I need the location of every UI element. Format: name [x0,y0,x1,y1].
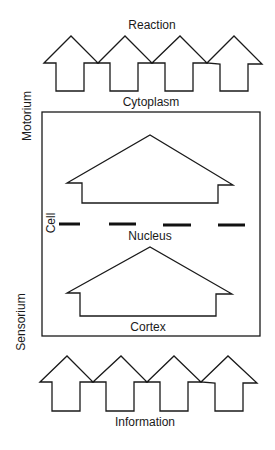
nucleus-membrane-dashes [59,224,245,225]
bottom-arrow-3 [147,356,201,411]
nucleus-label: Nucleus [128,229,171,243]
bottom-arrow-4 [201,356,257,411]
motorium-label: Motorium [20,91,34,141]
lower-house-arrow [67,247,232,316]
sensorium-label: Sensorium [14,293,28,350]
bottom-arrow-row [40,356,257,411]
upper-house-arrow [67,135,233,203]
top-arrow-row [44,36,262,91]
reaction-label: Reaction [128,18,175,32]
information-label: Information [115,415,175,429]
top-arrow-2 [98,36,152,91]
bottom-arrow-1 [40,356,93,411]
top-arrow-4 [207,36,262,91]
top-arrow-1 [44,36,98,91]
cell-label: Cell [44,213,58,234]
diagram-canvas: Reaction Cytoplasm Motorium Cell Nucleus… [0,0,275,450]
cortex-label: Cortex [130,320,165,334]
top-arrow-3 [152,36,207,91]
cytoplasm-label: Cytoplasm [123,95,180,109]
bottom-arrow-2 [93,356,147,411]
